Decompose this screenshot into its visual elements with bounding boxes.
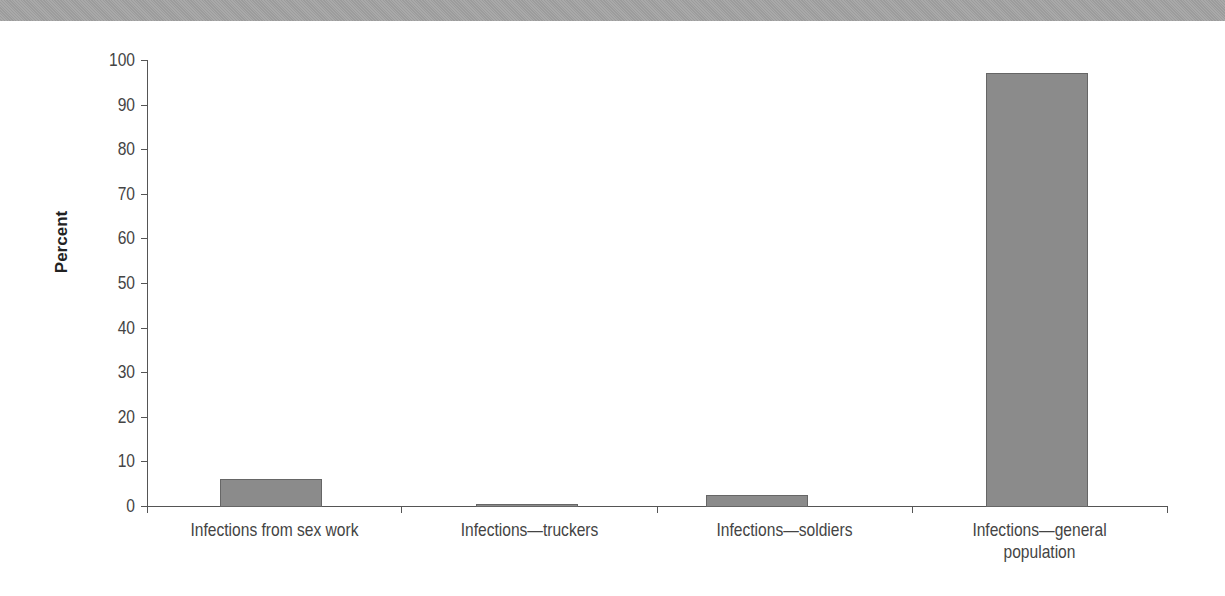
y-tick-label: 20 <box>86 407 135 427</box>
y-tick <box>141 328 147 329</box>
x-tick <box>147 506 148 513</box>
x-label-sex-work: Infections from sex work <box>170 519 379 541</box>
x-label-soldiers: Infections—soldiers <box>680 519 889 541</box>
bar <box>986 73 1088 507</box>
y-tick <box>141 149 147 150</box>
y-axis <box>147 60 148 507</box>
y-tick-label: 10 <box>86 451 135 471</box>
y-tick <box>141 194 147 195</box>
y-tick <box>141 60 147 61</box>
x-label-line: population <box>935 541 1144 563</box>
x-tick <box>657 506 658 513</box>
x-tick <box>401 506 402 513</box>
y-tick-label: 60 <box>86 228 135 248</box>
x-tick <box>912 506 913 513</box>
y-tick <box>141 105 147 106</box>
x-tick <box>1167 506 1168 513</box>
y-axis-title: Percent <box>52 211 72 273</box>
y-tick <box>141 417 147 418</box>
x-label-general-population: Infections—general population <box>935 519 1144 563</box>
y-tick-label: 70 <box>86 184 135 204</box>
y-tick-label: 0 <box>86 496 135 516</box>
y-tick <box>141 461 147 462</box>
bar <box>706 495 808 507</box>
y-tick-label: 50 <box>86 273 135 293</box>
bar-chart: Percent 0102030405060708090100 Infection… <box>0 0 1225 596</box>
y-tick-label: 90 <box>86 95 135 115</box>
y-tick <box>141 372 147 373</box>
y-tick-label: 80 <box>86 139 135 159</box>
bar <box>476 504 578 507</box>
y-tick <box>141 283 147 284</box>
bar <box>220 479 322 507</box>
y-tick-label: 30 <box>86 362 135 382</box>
x-label-line: Infections—general <box>935 519 1144 541</box>
y-tick-label: 40 <box>86 318 135 338</box>
x-label-truckers: Infections—truckers <box>425 519 634 541</box>
y-tick-label: 100 <box>86 50 135 70</box>
y-tick <box>141 238 147 239</box>
